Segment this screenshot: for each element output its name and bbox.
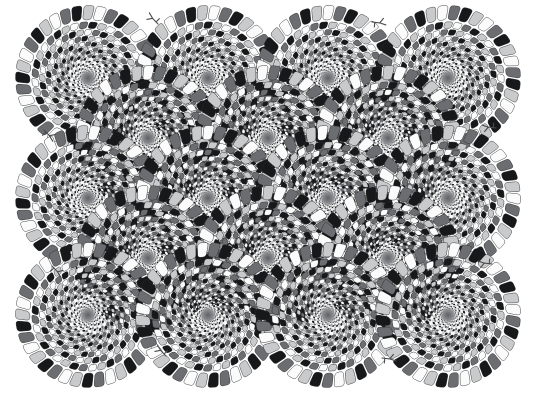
rotating-snakes-figure: A white field filled with overlapping ci… (0, 0, 536, 397)
rotating-snakes-canvas (0, 0, 536, 397)
